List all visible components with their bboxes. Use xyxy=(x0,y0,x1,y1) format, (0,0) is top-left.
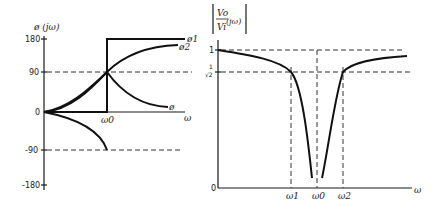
phase-x-label: ω xyxy=(184,113,192,123)
tick-frac-den: √2 xyxy=(205,71,213,78)
tick-omega0-left: ω0 xyxy=(101,115,114,125)
curve-notch-right xyxy=(322,56,407,178)
phase-y-label: ø (jω) xyxy=(33,22,60,32)
tick-1: 1 xyxy=(209,46,214,55)
diagram-canvas: ø (jω) 180 90 0 -90 -180 ω0 ω ø1 ø2 ø Vo… xyxy=(0,0,444,210)
tick-minus90: -90 xyxy=(25,146,38,155)
curve-lower xyxy=(44,112,107,150)
curve-notch-left xyxy=(218,50,312,178)
tick-90: 90 xyxy=(29,68,39,77)
magnitude-plot: Vo Vi (jω) 1 1 √2 0 ω1 ω0 ω2 ω xyxy=(205,4,422,201)
tick-frac-num: 1 xyxy=(209,63,213,70)
phase-plot: ø (jω) 180 90 0 -90 -180 ω0 ω ø1 ø2 ø xyxy=(22,22,198,190)
label-phi2: ø2 xyxy=(178,42,190,52)
tick-omega1: ω1 xyxy=(286,191,299,201)
tick-omega2: ω2 xyxy=(338,191,351,201)
mag-y-label-den: Vi xyxy=(217,22,226,32)
label-phi: ø xyxy=(168,102,175,112)
tick-0-right: 0 xyxy=(211,184,216,193)
tick-0: 0 xyxy=(35,108,40,117)
tick-omega0-right: ω0 xyxy=(312,191,325,201)
mag-x-label: ω xyxy=(414,185,422,195)
mag-y-label-suffix: (jω) xyxy=(226,17,241,26)
tick-180: 180 xyxy=(25,35,40,44)
tick-minus180: -180 xyxy=(22,181,40,190)
curve-phi1 xyxy=(44,39,185,112)
